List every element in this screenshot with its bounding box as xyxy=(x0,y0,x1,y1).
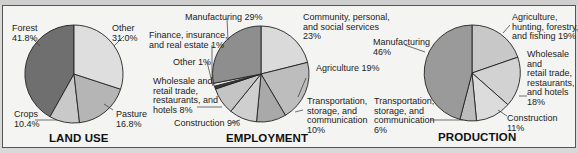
prod-wholesale-label: Wholesale and retail trade, restaurants,… xyxy=(527,50,575,107)
land-crops-label: Crops 10.4% xyxy=(14,110,40,129)
emp-finance-label: Finance, insurance, and real estate 1% xyxy=(149,31,228,50)
emp-construction-label: Construction 9% xyxy=(174,119,240,129)
land-use-title: LAND USE xyxy=(49,132,109,144)
employment-title: EMPLOYMENT xyxy=(226,132,308,144)
emp-other-label: Other 1% xyxy=(173,58,211,68)
emp-wholesale-label: Wholesale and retail trade, restaurants,… xyxy=(153,77,218,115)
prod-manufacturing-label: Manufacturing 46% xyxy=(373,38,430,57)
land-forest-label: Forest 41.8% xyxy=(12,24,38,43)
production-title: PRODUCTION xyxy=(438,131,516,143)
emp-manufacturing-label: Manufacturing 29% xyxy=(185,13,263,23)
emp-agriculture-label: Agriculture 19% xyxy=(316,64,380,74)
prod-transportation-label: Transportation, storage, and communicati… xyxy=(374,97,435,135)
land-other-label: Other 31.0% xyxy=(112,24,138,43)
prod-agriculture-label: Agriculture, hunting, forestry, and fish… xyxy=(512,13,578,42)
emp-transportation-label: Transportation, storage, and communicati… xyxy=(307,97,368,135)
land-use-pie xyxy=(25,25,123,123)
land-pasture-label: Pasture 16.8% xyxy=(116,110,147,129)
production-pie xyxy=(424,25,520,121)
